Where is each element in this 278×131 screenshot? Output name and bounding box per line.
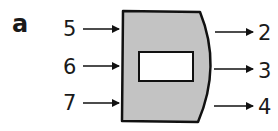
machine-window	[139, 52, 193, 81]
function-machine-diagram	[0, 0, 278, 131]
